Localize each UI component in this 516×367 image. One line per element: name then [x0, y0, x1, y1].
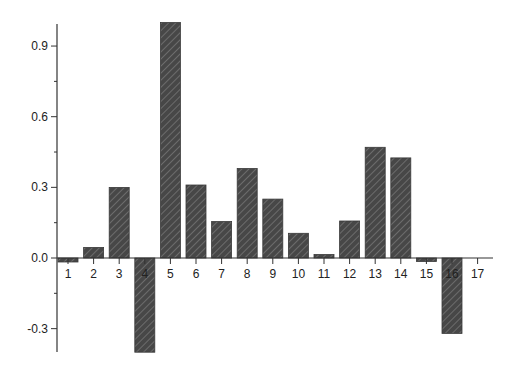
bar-7 — [212, 222, 232, 259]
x-tick-label: 14 — [394, 267, 408, 281]
x-tick-label: 10 — [292, 267, 306, 281]
bars-group — [58, 23, 462, 353]
x-tick-label: 1 — [65, 267, 72, 281]
bar-14 — [391, 158, 411, 258]
x-tick-label: 7 — [218, 267, 225, 281]
bar-2 — [84, 247, 104, 258]
x-tick-label: 16 — [445, 267, 459, 281]
x-tick-label: 8 — [244, 267, 251, 281]
y-tick-label: 0.9 — [31, 39, 48, 53]
x-tick-label: 13 — [369, 267, 383, 281]
x-tick-label: 6 — [193, 267, 200, 281]
bar-chart: -0.30.00.30.60.9123456789101112131415161… — [0, 0, 516, 367]
x-tick-label: 11 — [318, 267, 331, 281]
y-tick-label: 0.0 — [31, 251, 48, 265]
x-tick-label: 3 — [116, 267, 123, 281]
y-tick-label: -0.3 — [27, 322, 48, 336]
axes-group: -0.30.00.30.60.9123456789101112131415161… — [27, 24, 493, 352]
bar-3 — [109, 187, 129, 258]
x-tick-label: 2 — [90, 267, 97, 281]
x-tick-label: 5 — [167, 267, 174, 281]
y-tick-label: 0.6 — [31, 110, 48, 124]
x-tick-label: 12 — [343, 267, 357, 281]
bar-5 — [160, 23, 180, 259]
y-tick-label: 0.3 — [31, 180, 48, 194]
bar-12 — [340, 221, 360, 258]
bar-13 — [365, 147, 385, 258]
bar-6 — [186, 185, 206, 258]
bar-10 — [288, 233, 308, 258]
x-tick-label: 17 — [471, 267, 485, 281]
x-tick-label: 15 — [420, 267, 434, 281]
bar-8 — [237, 169, 257, 259]
x-tick-label: 9 — [269, 267, 276, 281]
bar-9 — [263, 199, 283, 258]
x-tick-label: 4 — [141, 267, 148, 281]
